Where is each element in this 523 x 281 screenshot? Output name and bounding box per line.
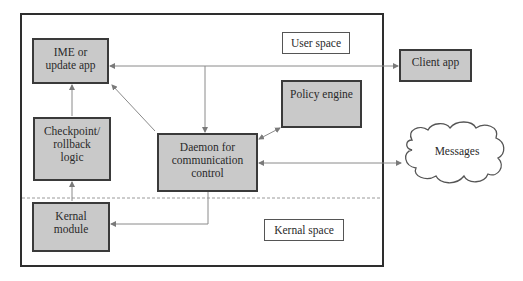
kernal-space-label: Kernal space xyxy=(264,219,344,241)
daemon-line-1: Daemon for xyxy=(172,141,244,154)
policy-engine-text: Policy engine xyxy=(290,88,353,101)
messages-text: Messages xyxy=(435,145,480,157)
node-client-app: Client app xyxy=(399,49,472,82)
node-messages: Messages xyxy=(420,145,494,157)
user-space-text: User space xyxy=(291,37,341,49)
kernal-module-line-2: module xyxy=(54,223,89,236)
edge-daemon-ime xyxy=(112,85,155,131)
client-app-text: Client app xyxy=(412,56,460,69)
kernal-space-text: Kernal space xyxy=(274,224,334,236)
ime-line-2: update app xyxy=(45,59,95,72)
node-checkpoint-rollback: Checkpoint/ rollback logic xyxy=(33,117,111,181)
daemon-line-3: control xyxy=(172,167,244,180)
node-policy-engine: Policy engine xyxy=(281,80,362,128)
daemon-line-2: communication xyxy=(172,154,244,167)
ime-line-1: IME or xyxy=(45,46,95,59)
edge-daemon-policy xyxy=(259,128,280,139)
checkpoint-line-2: rollback xyxy=(44,138,100,151)
node-ime-update-app: IME or update app xyxy=(32,38,109,84)
node-kernal-module: Kernal module xyxy=(32,202,110,252)
kernal-module-line-1: Kernal xyxy=(54,210,89,223)
checkpoint-line-3: logic xyxy=(44,151,100,164)
node-daemon-communication-control: Daemon for communication control xyxy=(157,133,258,192)
edge-daemon-kernal xyxy=(111,192,208,224)
user-space-label: User space xyxy=(282,32,350,54)
checkpoint-line-1: Checkpoint/ xyxy=(44,125,100,138)
